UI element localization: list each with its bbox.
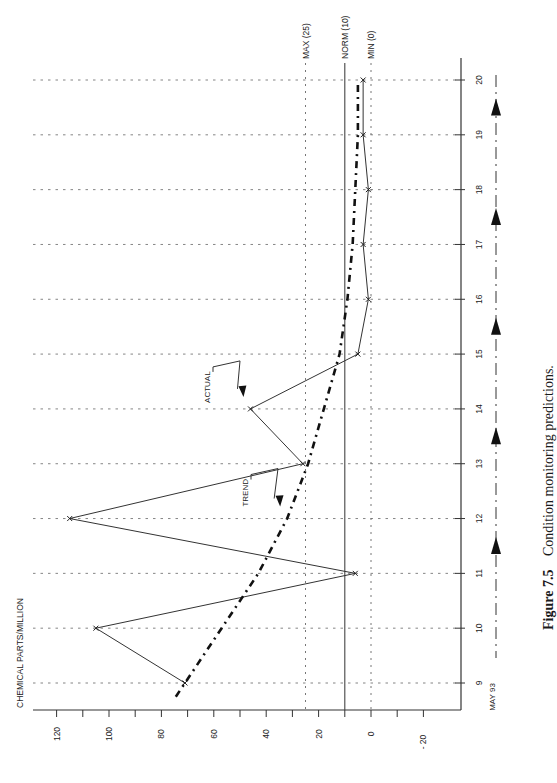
timeline-arrow-icon (491, 537, 501, 554)
figure-caption: Figure 7.5 Condition monitoring predicti… (519, 160, 543, 630)
date-start-label: MAY 93 (488, 683, 497, 711)
figure-number: Figure 7.5 (541, 570, 556, 630)
timeline-arrow-icon (491, 98, 501, 115)
annotation-arrow-icon (276, 495, 284, 506)
reference-label-max: MAX (25) (301, 23, 311, 59)
annotation-label-trend: TREND (241, 479, 250, 507)
timeline-arrow-icon (491, 208, 501, 225)
timeline-arrow-icon (491, 318, 501, 335)
reference-label-min: MIN (0) (366, 31, 376, 60)
date-tick-label: 10 (474, 623, 484, 633)
reference-label-norm: NORM (10) (340, 15, 350, 59)
value-tick-label: 100 (104, 727, 114, 741)
value-tick-label: 60 (209, 729, 219, 739)
annotation-arrow-icon (238, 386, 246, 397)
date-tick-label: 14 (474, 404, 484, 414)
annotation-leader-actual (213, 361, 240, 389)
date-tick-label: 19 (474, 130, 484, 140)
actual-line (70, 80, 369, 683)
value-tick-label: - 20 (418, 734, 428, 749)
value-tick-label: 80 (156, 729, 166, 739)
value-tick-label: 40 (261, 729, 271, 739)
value-axis: 120100806040200- 20CHEMICAL PARTS/MILLIO… (15, 598, 428, 749)
series-lines (67, 78, 371, 697)
date-tick-label: 13 (474, 459, 484, 469)
plot-frame (33, 58, 461, 710)
date-tick-label: 12 (474, 514, 484, 524)
figure-caption-text: Condition monitoring predictions. (541, 365, 556, 556)
timeline-arrow-icon (491, 427, 501, 444)
date-tick-label: 11 (474, 569, 484, 578)
date-tick-label: 17 (474, 239, 484, 249)
date-tick-label: 15 (474, 349, 484, 359)
timeline-arrows (491, 75, 501, 658)
date-tick-label: 16 (474, 294, 484, 304)
date-tick-label: 9 (474, 680, 484, 685)
date-tick-label: 18 (474, 185, 484, 195)
annotation-label-actual: ACTUAL (203, 371, 212, 403)
value-tick-label: 0 (366, 731, 376, 736)
value-tick-label: 120 (52, 727, 62, 741)
date-tick-label: 20 (474, 75, 484, 85)
value-tick-label: 20 (314, 729, 324, 739)
value-axis-title: CHEMICAL PARTS/MILLION (15, 598, 25, 708)
